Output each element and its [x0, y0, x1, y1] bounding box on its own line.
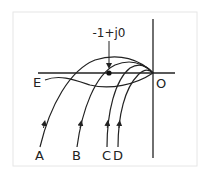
origin-label: O — [156, 76, 166, 91]
curve-d-label: D — [113, 148, 123, 163]
critical-point-marker — [106, 70, 111, 75]
nyquist-diagram: -1+j0 O E A B C D — [0, 0, 206, 180]
curve-d-arrow — [119, 123, 120, 128]
curve-b-label: B — [72, 148, 81, 163]
curve-e-label: E — [33, 75, 41, 90]
critical-point-label: -1+j0 — [93, 26, 126, 40]
curve-a — [40, 57, 153, 147]
curve-b — [77, 62, 153, 147]
curve-a-label: A — [35, 148, 44, 163]
curve-c-label: C — [102, 148, 111, 163]
curve-a-arrow — [44, 123, 45, 128]
